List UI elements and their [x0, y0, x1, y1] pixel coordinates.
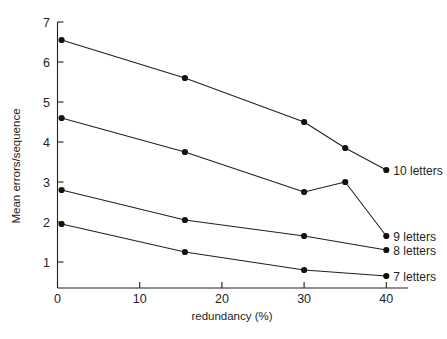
data-point: [182, 217, 188, 223]
x-tick-label: 20: [215, 292, 229, 306]
series-polyline: [62, 224, 387, 276]
series-polyline: [62, 118, 387, 236]
y-tick-label: 6: [43, 56, 50, 70]
data-point: [182, 249, 188, 255]
data-point: [59, 221, 65, 227]
x-axis-title: redundancy (%): [191, 310, 272, 322]
data-point: [383, 167, 389, 173]
series-polyline: [62, 190, 387, 250]
y-axis-title: Mean errors/sequence: [10, 108, 22, 223]
series-label: 8 letters: [393, 244, 436, 258]
axes-group: [58, 22, 409, 288]
series-label: 7 letters: [393, 270, 436, 284]
x-tick-label: 0: [54, 292, 61, 306]
data-point: [342, 145, 348, 151]
series-layer: [59, 37, 390, 279]
data-point: [383, 247, 389, 253]
x-axis-ticks: 010203040: [54, 282, 393, 306]
data-point: [182, 149, 188, 155]
series-label: 9 letters: [393, 230, 436, 244]
data-point: [59, 115, 65, 121]
y-tick-label: 7: [43, 16, 50, 30]
y-tick-label: 5: [43, 96, 50, 110]
data-point: [301, 233, 307, 239]
data-point: [383, 273, 389, 279]
y-tick-label: 2: [43, 216, 50, 230]
data-point: [383, 233, 389, 239]
line-chart: 1234567 010203040 10 letters9 letters8 l…: [0, 0, 447, 339]
data-point: [59, 37, 65, 43]
data-point: [342, 179, 348, 185]
y-axis-ticks: 1234567: [43, 16, 63, 270]
x-tick-label: 10: [133, 292, 147, 306]
series-labels: 10 letters9 letters8 letters7 letters: [393, 164, 442, 284]
data-point: [59, 187, 65, 193]
y-tick-label: 4: [43, 136, 50, 150]
x-tick-label: 30: [297, 292, 311, 306]
data-point: [301, 119, 307, 125]
data-point: [301, 189, 307, 195]
data-point: [301, 267, 307, 273]
x-tick-label: 40: [379, 292, 393, 306]
series-label: 10 letters: [393, 164, 442, 178]
series-polyline: [62, 40, 387, 170]
y-tick-label: 1: [43, 256, 50, 270]
y-tick-label: 3: [43, 176, 50, 190]
chart-page: 1234567 010203040 10 letters9 letters8 l…: [0, 0, 447, 339]
data-point: [182, 75, 188, 81]
